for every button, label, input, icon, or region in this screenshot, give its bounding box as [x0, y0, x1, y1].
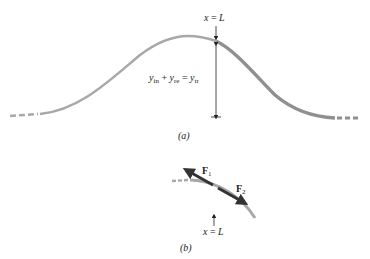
wave-diagram: x = L yin + yre = ytr (a) F1 F2 x = L (b…: [0, 0, 370, 259]
position-label-b: x = L: [202, 226, 224, 237]
string-dash-b: [172, 180, 188, 181]
caption-b: (b): [180, 242, 192, 254]
string-closeup-b: [172, 180, 255, 218]
string-dash-left: [10, 114, 38, 116]
caption-a: (a): [178, 130, 190, 142]
superposition-equation: yin + yre = ytr: [148, 72, 199, 85]
force-label-2: F2: [236, 183, 246, 196]
string-right: [216, 41, 335, 118]
string-segment-b: [190, 180, 255, 218]
force-label-1: F1: [202, 165, 212, 178]
position-label-a: x = L: [203, 12, 225, 23]
